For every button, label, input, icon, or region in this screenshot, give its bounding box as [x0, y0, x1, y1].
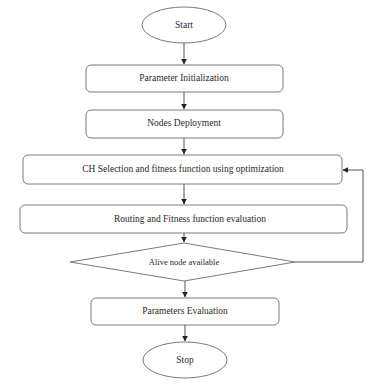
ch-selection-label: CH Selection and fitness function using …	[82, 164, 284, 174]
param-init-label: Parameter Initialization	[139, 73, 229, 83]
alive-check-node: Alive node available	[70, 243, 295, 281]
nodes-deploy-node: Nodes Deployment	[86, 110, 283, 138]
alive-check-label: Alive node available	[149, 257, 220, 267]
routing-label: Routing and Fitness function evaluation	[114, 214, 266, 224]
params-eval-node: Parameters Evaluation	[91, 298, 279, 325]
param-init-node: Parameter Initialization	[86, 65, 283, 92]
routing-node: Routing and Fitness function evaluation	[20, 205, 347, 233]
params-eval-label: Parameters Evaluation	[142, 306, 228, 316]
flowchart: Start Parameter Initialization Nodes Dep…	[0, 0, 381, 384]
start-node: Start	[142, 7, 226, 43]
ch-selection-node: CH Selection and fitness function using …	[23, 155, 342, 184]
start-label: Start	[175, 20, 193, 30]
stop-label: Stop	[176, 355, 194, 365]
nodes-deploy-label: Nodes Deployment	[147, 118, 221, 128]
stop-node: Stop	[143, 342, 227, 378]
